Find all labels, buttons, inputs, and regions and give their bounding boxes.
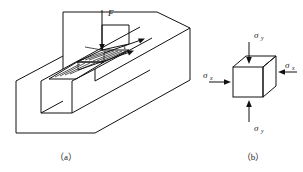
sigma-x-right-label: σ bbox=[285, 60, 290, 70]
sigma-y-top-subscript: y bbox=[260, 35, 264, 41]
shear-stress-arrows bbox=[78, 39, 145, 71]
stress-cube bbox=[233, 56, 276, 97]
block-groove bbox=[41, 27, 152, 113]
force-label-F: F bbox=[107, 8, 114, 18]
sigma-x-left-subscript: x bbox=[209, 75, 213, 81]
panel-a-group: F τ （a） bbox=[16, 8, 190, 162]
technical-diagram-svg: F τ （a） bbox=[0, 0, 303, 172]
force-arrow-F bbox=[99, 10, 105, 51]
sigma-y-top-label: σ bbox=[254, 30, 259, 40]
sigma-x-right-subscript: x bbox=[291, 65, 295, 71]
sigma-y-bottom-label: σ bbox=[254, 123, 259, 133]
block-body-outline bbox=[16, 12, 190, 133]
sigma-x-left-label: σ bbox=[203, 70, 208, 80]
sigma-y-bottom-arrow bbox=[246, 100, 252, 122]
sigma-y-bottom-subscript: y bbox=[260, 128, 264, 134]
panel-b-caption: （b） bbox=[242, 152, 265, 162]
sigma-y-top-arrow bbox=[246, 42, 252, 64]
panel-a-caption: （a） bbox=[55, 152, 77, 162]
figure-root: F τ （a） bbox=[0, 0, 303, 172]
panel-b-group: σ y σ y σ x σ x （b） bbox=[203, 30, 297, 162]
